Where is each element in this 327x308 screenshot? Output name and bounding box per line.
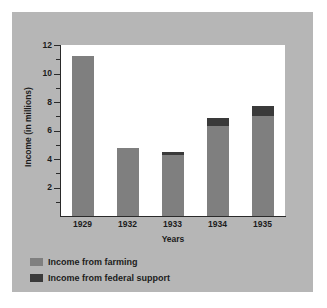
bar-1929 [72, 45, 94, 216]
legend-item: Income from federal support [30, 271, 300, 285]
bar-segment-farming [207, 126, 229, 216]
x-axis-tick-label: 1929 [63, 219, 103, 229]
bar-segment-federal-support [252, 106, 274, 116]
legend-label: Income from federal support [48, 273, 170, 283]
x-axis-tick-label: 1934 [198, 219, 238, 229]
bar-segment-federal-support [207, 118, 229, 127]
bar-1935 [252, 45, 274, 216]
bars-layer [60, 45, 286, 216]
bar-1932 [117, 45, 139, 216]
y-axis-tick-label: 12 [28, 41, 52, 50]
x-axis-tick-label: 1932 [108, 219, 148, 229]
x-axis-line [60, 216, 286, 217]
x-axis-tick-labels: 19291932193319341935 [60, 219, 286, 233]
legend-swatch-icon [30, 258, 43, 266]
bar-segment-farming [117, 148, 139, 216]
legend-swatch-icon [30, 274, 43, 282]
chart-legend: Income from farmingIncome from federal s… [30, 255, 300, 287]
y-axis-title: Income (in millions) [23, 62, 33, 192]
legend-item: Income from farming [30, 255, 300, 269]
bar-segment-farming [252, 116, 274, 216]
bar-1933 [162, 45, 184, 216]
bar-segment-farming [162, 155, 184, 216]
bar-segment-federal-support [162, 152, 184, 156]
legend-label: Income from farming [48, 257, 138, 267]
x-axis-tick-label: 1933 [153, 219, 193, 229]
x-axis-tick-label: 1935 [243, 219, 283, 229]
chart-figure: 24681012 Income (in millions) 1929193219… [0, 0, 327, 308]
bar-1934 [207, 45, 229, 216]
chart-panel: 24681012 Income (in millions) 1929193219… [12, 12, 313, 292]
x-axis-title: Years [60, 234, 286, 244]
bar-segment-farming [72, 56, 94, 216]
